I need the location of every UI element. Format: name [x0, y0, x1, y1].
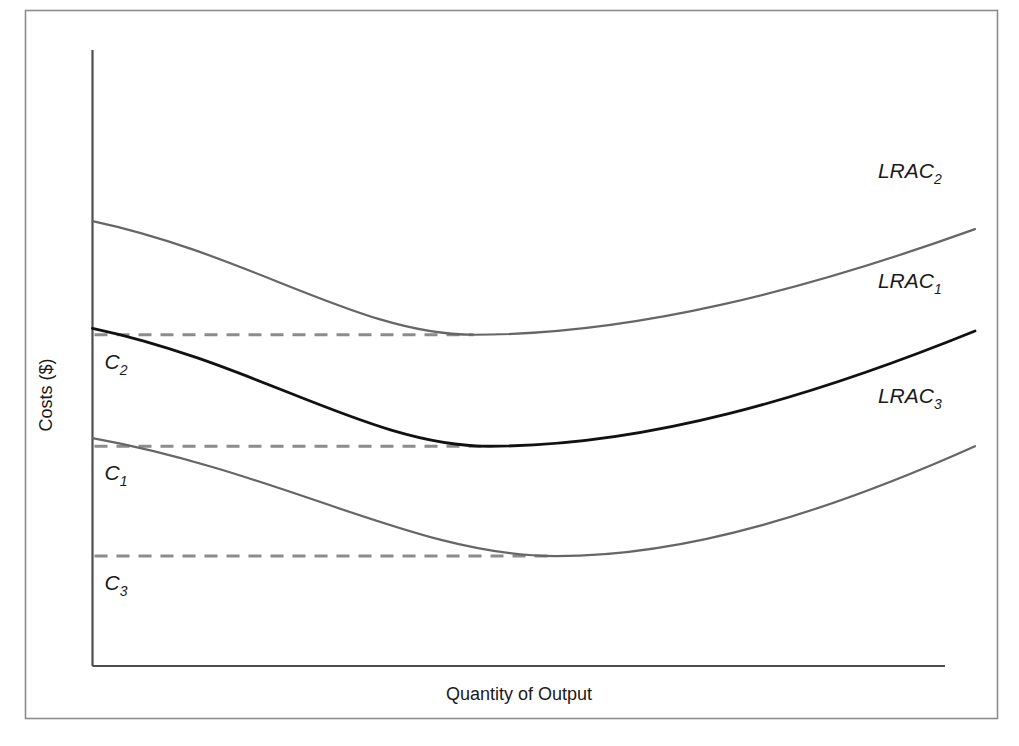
curve-label-subscript: 1 [934, 281, 942, 297]
curve-label-subscript: 3 [934, 396, 942, 412]
curve-label-text: LRAC [878, 384, 935, 407]
y-axis-title: Costs ($) [36, 358, 56, 431]
curve-label-subscript: 2 [933, 171, 942, 187]
lrac-chart-svg: LRAC2LRAC1LRAC3 C2C1C3 Quantity of Outpu… [0, 0, 1019, 746]
curve-label-text: LRAC [878, 159, 935, 182]
figure-container: LRAC2LRAC1LRAC3 C2C1C3 Quantity of Outpu… [0, 0, 1019, 746]
cost-label-text: C [105, 350, 121, 373]
curve-label-text: LRAC [878, 269, 935, 292]
cost-label-subscript: 2 [119, 362, 128, 378]
x-axis-title: Quantity of Output [446, 684, 592, 704]
cost-label-text: C [105, 571, 121, 594]
cost-label-text: C [105, 461, 121, 484]
cost-label-subscript: 3 [120, 583, 128, 599]
cost-label-subscript: 1 [120, 473, 128, 489]
